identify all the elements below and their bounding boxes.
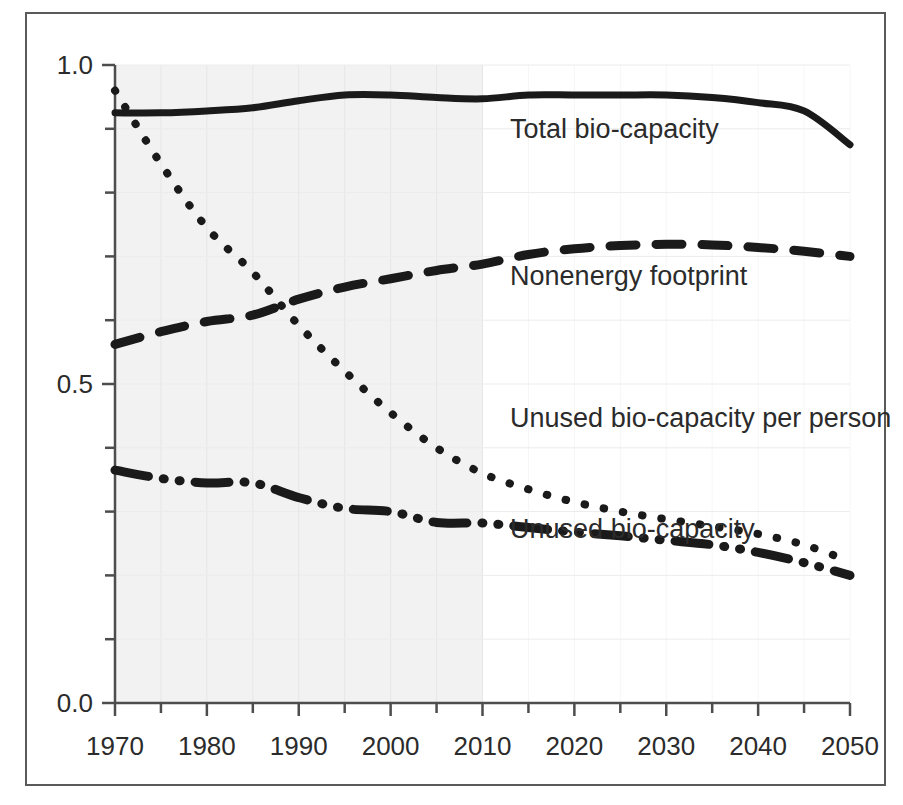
x-axis-tick-labels: 197019801990200020102020203020402050 xyxy=(86,731,879,761)
x-tick-label: 1990 xyxy=(270,731,328,761)
y-tick-label: 1.0 xyxy=(57,50,93,80)
series-label-0: Total bio-capacity xyxy=(510,114,719,144)
x-tick-label: 2030 xyxy=(637,731,695,761)
line-chart-canvas: 0.00.51.0 197019801990200020102020203020… xyxy=(0,0,903,805)
x-tick-label: 2000 xyxy=(362,731,420,761)
chart-figure: 0.00.51.0 197019801990200020102020203020… xyxy=(0,0,903,805)
x-tick-label: 2040 xyxy=(729,731,787,761)
x-tick-label: 2010 xyxy=(454,731,512,761)
x-tick-label: 2020 xyxy=(545,731,603,761)
series-label-3: Unused bio-capacity xyxy=(510,514,755,544)
series-label-2: Unused bio-capacity per person xyxy=(510,403,891,433)
x-tick-label: 1970 xyxy=(86,731,144,761)
y-tick-label: 0.0 xyxy=(57,688,93,718)
y-axis-tick-labels: 0.00.51.0 xyxy=(57,50,93,718)
x-tick-label: 2050 xyxy=(821,731,879,761)
y-axis-ticks xyxy=(102,65,115,703)
series-label-1: Nonenergy footprint xyxy=(510,261,748,291)
series-annotations-group: Total bio-capacityNonenergy footprintUnu… xyxy=(510,114,891,544)
x-axis-ticks xyxy=(115,703,850,716)
x-tick-label: 1980 xyxy=(178,731,236,761)
y-tick-label: 0.5 xyxy=(57,369,93,399)
